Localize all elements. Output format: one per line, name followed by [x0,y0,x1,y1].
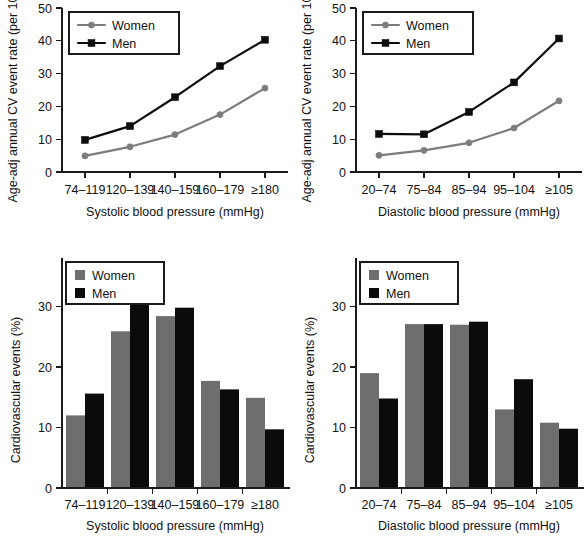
x-category-label: 85–94 [452,498,487,512]
legend-marker-women [382,22,388,28]
x-category-label: ≥105 [545,498,573,512]
figure-four-panel-bp-cv-events: 0 10 20 30 40 50 Age-adj annual CV event… [0,0,588,546]
x-category-label: 140–159 [151,183,200,197]
bar-men [220,389,239,488]
y-tick-label-10: 10 [332,133,346,147]
data-point-women [466,140,472,146]
y-axis-title: Age-adj annual CV event rate (per 1000) [6,0,20,203]
bar-women [66,415,85,488]
y-tick-label-20: 20 [332,100,346,114]
legend-label-men: Men [406,37,430,51]
data-point-men [511,79,518,86]
x-axis-group: 74–119 120–139 140–159 160–179 ≥180 Syst… [62,172,288,219]
caption-cut-off-text [6,538,246,546]
bar-women [111,331,130,488]
x-category-label: 20–74 [362,498,397,512]
x-category-label: ≥180 [251,183,279,197]
line-men [85,40,265,140]
x-category-label: 140–159 [151,498,200,512]
legend-label-women: Women [406,19,449,33]
panel-systolic-events-percent: 0 10 20 30 Cardiovascular events (%) [0,250,294,535]
bars-group [360,322,578,488]
x-category-label: 95–104 [493,498,535,512]
y-tick-label-30: 30 [38,300,52,314]
chart-diastolic-event-rate: 0 10 20 30 40 50 Age-adj annual CV event… [294,0,588,240]
chart-diastolic-events-percent: 0 10 20 30 Cardiovascular events (%) [294,250,588,535]
legend-label-men: Men [92,287,116,301]
panel-systolic-event-rate: 0 10 20 30 40 50 Age-adj annual CV event… [0,0,294,240]
x-axis-group: 74–119 120–139 140–159 160–179 ≥180 Syst… [62,488,290,533]
legend-marker-women [88,22,94,28]
legend-label-women: Women [92,269,135,283]
y-axis-group: 0 10 20 30 Cardiovascular events (%) [303,258,356,496]
bar-women [495,409,514,488]
x-category-label: 120–139 [106,183,155,197]
y-tick-label-30: 30 [332,300,346,314]
x-category-label: 95–104 [493,183,535,197]
data-point-women [556,98,562,104]
y-tick-label-20: 20 [38,361,52,375]
panel-diastolic-event-rate: 0 10 20 30 40 50 Age-adj annual CV event… [294,0,588,240]
data-point-men [82,137,89,144]
y-axis-title: Cardiovascular events (%) [303,317,317,464]
legend-marker-men [88,40,95,47]
bar-women [450,325,469,488]
y-tick-label-30: 30 [38,67,52,81]
legend-label-women: Women [112,19,155,33]
bar-men [265,429,284,488]
x-axis-title: Systolic blood pressure (mmHg) [86,519,264,533]
bar-men [559,429,578,488]
legend-label-men: Men [386,287,410,301]
data-point-women [511,125,517,131]
bar-men [514,379,533,488]
x-category-label: 85–94 [452,183,487,197]
x-tick-marks [379,172,559,178]
y-tick-label-10: 10 [332,421,346,435]
y-tick-marks [350,307,356,489]
x-category-label: 74–119 [65,498,106,512]
legend-marker-men [382,40,389,47]
data-point-women [217,112,223,118]
y-tick-label-0: 0 [339,482,346,496]
bar-women [246,398,265,488]
data-point-women [172,132,178,138]
x-category-label: 74–119 [65,183,106,197]
y-tick-label-40: 40 [332,34,346,48]
chart-systolic-event-rate: 0 10 20 30 40 50 Age-adj annual CV event… [0,0,294,240]
y-axis-group: 0 10 20 30 40 50 Age-adj annual CV event… [300,0,356,203]
y-tick-label-10: 10 [38,133,52,147]
y-axis-group: 0 10 20 30 40 50 Age-adj annual CV event… [6,0,62,203]
legend-swatch-women [369,270,379,280]
x-category-label: 75–84 [407,498,442,512]
legend-swatch-men [369,288,379,298]
y-tick-marks [56,8,62,172]
x-axis-title: Diastolic blood pressure (mmHg) [378,519,560,533]
data-point-women [127,144,133,150]
bar-women [360,373,379,488]
data-point-women [421,147,427,153]
x-category-label: 160–179 [196,183,245,197]
data-point-men [556,35,563,42]
legend: Women Men [66,262,164,304]
y-tick-label-0: 0 [45,482,52,496]
x-category-label: ≥180 [251,498,279,512]
y-axis-title: Cardiovascular events (%) [9,317,23,464]
panel-diastolic-events-percent: 0 10 20 30 Cardiovascular events (%) [294,250,588,535]
bar-men [424,324,443,488]
y-tick-label-0: 0 [45,166,52,180]
bar-men [85,394,104,488]
y-tick-label-50: 50 [38,2,52,16]
y-tick-label-40: 40 [38,34,52,48]
chart-systolic-events-percent: 0 10 20 30 Cardiovascular events (%) [0,250,294,535]
bar-women [156,316,175,488]
y-tick-label-10: 10 [38,421,52,435]
legend-label-women: Women [386,269,429,283]
data-point-women [82,153,88,159]
y-tick-label-0: 0 [339,166,346,180]
y-tick-label-20: 20 [332,361,346,375]
data-point-men [376,131,383,138]
bar-men [379,399,398,489]
legend-swatch-women [75,270,85,280]
bar-women [405,324,424,488]
y-tick-marks [350,8,356,172]
